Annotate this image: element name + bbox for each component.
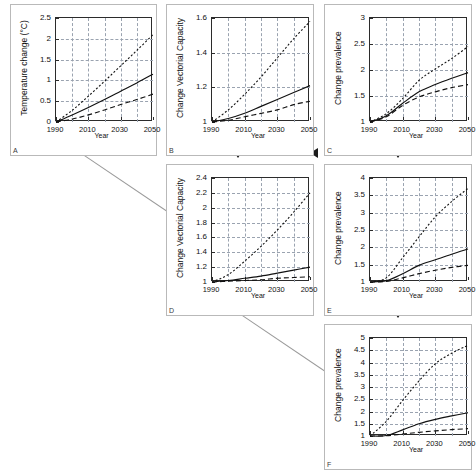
y-tick-label: 3 [361,207,365,216]
y-tick-label: 1.8 [196,217,207,226]
x-tick-mark [310,117,311,120]
x-tick-label: 2050 [301,125,318,134]
x-tick-label: 2030 [268,125,285,134]
series-line-solid [212,86,310,122]
y-tick-label: 1.2 [196,82,207,91]
y-axis-label: Change Vectorial Capacity [175,176,185,280]
panel-c: 11.522.531990201020302050Change prevalen… [324,4,472,156]
x-axis-label: Year [409,132,423,139]
panel-e-label: E [327,307,332,315]
panel-a-curves [56,18,153,122]
y-tick-label: 2.4 [196,173,207,182]
x-tick-mark [153,117,154,120]
series-line-dotted [212,193,310,282]
x-axis-label: Year [251,132,265,139]
panel-f-curves [370,338,468,436]
x-tick-mark [468,431,469,434]
x-tick-label: 2010 [79,125,96,134]
panel-b-axes [211,17,309,121]
series-line-dashed [56,94,153,122]
y-tick-label: 1.5 [40,54,51,63]
panel-d-plot: 11.21.41.61.822.22.41990201020302050Chan… [167,165,313,315]
y-tick-label: 1.4 [196,47,207,56]
panel-f: 11.522.533.544.551990201020302050Change … [324,324,472,470]
y-tick-label: 1.2 [196,262,207,271]
y-axis-label: Change Vectorial Capacity [175,16,185,120]
panel-a-axes [55,17,152,121]
x-tick-label: 1990 [203,125,220,134]
y-tick-label: 2 [47,33,51,42]
y-tick-label: 1.6 [196,13,207,22]
y-tick-label: 1.5 [354,259,365,268]
x-tick-label: 1990 [361,125,378,134]
y-tick-label: 4 [361,173,365,182]
x-tick-label: 2010 [235,285,252,294]
x-tick-label: 2010 [393,439,410,448]
series-line-dotted [56,35,153,122]
panel-b: 11.21.41.61990201020302050Change Vectori… [166,4,314,156]
x-tick-mark [310,277,311,280]
y-tick-label: 1.6 [196,232,207,241]
x-tick-label: 2050 [144,125,161,134]
series-line-dotted [370,345,468,436]
x-tick-label: 1990 [361,439,378,448]
y-tick-label: 1.5 [354,91,365,100]
panel-e: 11.522.533.541990201020302050Change prev… [324,164,472,316]
y-axis-label: Temperature change (°C) [19,16,29,120]
x-tick-label: 2010 [235,125,252,134]
x-tick-label: 2030 [426,125,443,134]
panel-d-axes [211,177,309,281]
y-tick-label: 2 [203,202,207,211]
panel-d-label: D [169,307,174,315]
series-line-dotted [370,188,468,282]
y-tick-label: 2 [361,242,365,251]
y-tick-label: 2.5 [354,225,365,234]
x-tick-label: 2030 [426,285,443,294]
y-tick-label: 1 [47,75,51,84]
y-tick-label: 2 [361,406,365,415]
figure-panel-grid: 00.511.522.51990201020302050Temperature … [0,0,476,473]
series-line-solid [56,74,153,122]
y-tick-label: 3 [361,13,365,22]
panel-b-curves [212,18,310,122]
series-line-dashed [370,429,468,436]
x-axis-label: Year [409,446,423,453]
y-tick-label: 5 [361,333,365,342]
series-line-solid [370,249,468,282]
y-tick-label: 2.5 [354,39,365,48]
y-tick-label: 0.5 [40,96,51,105]
x-tick-label: 2010 [393,285,410,294]
y-tick-label: 3.5 [354,369,365,378]
panel-f-plot: 11.522.533.544.551990201020302050Change … [325,325,471,469]
y-tick-label: 4.5 [354,345,365,354]
x-tick-label: 1990 [203,285,220,294]
x-tick-label: 2030 [268,285,285,294]
x-tick-label: 1990 [47,125,64,134]
panel-e-plot: 11.522.533.541990201020302050Change prev… [325,165,471,315]
x-tick-label: 2050 [459,439,476,448]
y-tick-label: 2.5 [40,13,51,22]
x-tick-label: 2050 [459,125,476,134]
y-tick-label: 2 [361,65,365,74]
y-tick-label: 2.2 [196,187,207,196]
y-tick-label: 3 [361,382,365,391]
panel-c-label: C [327,147,332,155]
x-tick-label: 2030 [426,439,443,448]
y-tick-label: 1.5 [354,418,365,427]
y-axis-label: Change prevalence [333,16,343,120]
panel-d: 11.21.41.61.822.22.41990201020302050Chan… [166,164,314,316]
y-tick-label: 4 [361,357,365,366]
panel-f-axes [369,337,467,435]
panel-b-label: B [169,147,174,155]
y-tick-label: 1.4 [196,247,207,256]
panel-e-axes [369,177,467,281]
panel-a-label: A [13,147,18,155]
panel-d-curves [212,178,310,282]
panel-b-plot: 11.21.41.61990201020302050Change Vectori… [167,5,313,155]
x-tick-label: 2050 [301,285,318,294]
x-axis-label: Year [95,132,109,139]
x-tick-label: 1990 [361,285,378,294]
series-line-dotted [370,47,468,122]
panel-a: 00.511.522.51990201020302050Temperature … [10,4,157,156]
y-axis-label: Change prevalence [333,336,343,434]
